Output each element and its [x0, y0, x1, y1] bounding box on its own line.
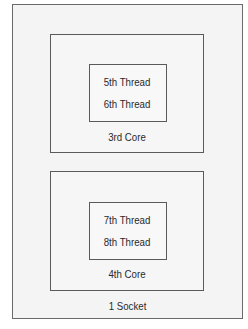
socket-label: 1 Socket — [26, 300, 229, 313]
core-label-4th: 4th Core — [59, 268, 195, 281]
thread-label-6th: 6th Thread — [59, 98, 195, 111]
thread-group-box-core4 — [89, 202, 167, 260]
thread-group-box-core3 — [89, 64, 167, 122]
thread-label-5th: 5th Thread — [59, 76, 195, 89]
thread-label-8th: 8th Thread — [59, 236, 195, 249]
core-label-3rd: 3rd Core — [59, 131, 195, 144]
thread-label-7th: 7th Thread — [59, 214, 195, 227]
